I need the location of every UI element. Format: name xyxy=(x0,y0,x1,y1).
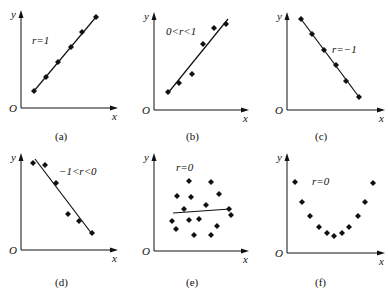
origin-label: O xyxy=(9,102,17,114)
scatter-panels: yxOr=1(a)yxO0<r<1(b)yxOr=−1(c)yxO−1<r<0(… xyxy=(0,0,388,297)
x-axis-label: x xyxy=(378,112,384,124)
data-point xyxy=(346,224,352,230)
data-point xyxy=(169,218,175,224)
data-point xyxy=(79,29,85,35)
x-axis-label: x xyxy=(378,255,384,267)
data-point xyxy=(186,178,192,184)
panel-e: yxOr=0(e) xyxy=(142,151,249,289)
y-axis-arrow-icon xyxy=(19,153,24,161)
y-axis-arrow-icon xyxy=(152,153,157,161)
data-point xyxy=(362,199,368,205)
data-point xyxy=(324,230,330,236)
data-point xyxy=(200,41,206,47)
data-point xyxy=(174,193,180,199)
panel-a: yxOr=1(a) xyxy=(9,8,118,143)
data-point xyxy=(214,223,220,229)
data-point xyxy=(292,179,298,185)
origin-label: O xyxy=(142,104,150,116)
data-point xyxy=(191,232,197,238)
correlation-annotation: −1<r<0 xyxy=(59,165,97,177)
x-axis-label: x xyxy=(111,110,117,122)
panel-f: yxOr=0(f) xyxy=(275,151,385,289)
x-axis-label: x xyxy=(111,252,117,264)
correlation-annotation: r=0 xyxy=(312,175,330,187)
data-point xyxy=(196,216,202,222)
panel-caption: (c) xyxy=(315,130,328,143)
data-point xyxy=(203,202,209,208)
data-point xyxy=(331,233,337,239)
correlation-annotation: r=0 xyxy=(176,161,194,173)
data-point xyxy=(173,226,179,232)
data-point xyxy=(30,160,36,166)
data-point xyxy=(186,217,192,223)
x-axis-label: x xyxy=(242,112,248,124)
y-axis-label: y xyxy=(143,151,149,163)
correlation-annotation: 0<r<1 xyxy=(166,25,196,37)
data-point xyxy=(65,211,71,217)
correlation-figure: yxOr=1(a)yxO0<r<1(b)yxOr=−1(c)yxO−1<r<0(… xyxy=(0,0,388,297)
panel-caption: (b) xyxy=(186,130,199,143)
data-point xyxy=(42,162,48,168)
panel-b: yxO0<r<1(b) xyxy=(142,10,249,143)
data-point xyxy=(226,206,232,212)
panel-caption: (f) xyxy=(315,276,326,289)
panel-c: yxOr=−1(c) xyxy=(275,10,385,143)
data-point xyxy=(307,213,313,219)
y-axis-label: y xyxy=(143,10,149,22)
y-axis-label: y xyxy=(276,151,282,163)
y-axis-arrow-icon xyxy=(152,12,157,20)
data-point xyxy=(189,71,195,77)
data-point xyxy=(208,179,214,185)
data-point xyxy=(208,232,214,238)
data-point xyxy=(176,80,182,86)
origin-label: O xyxy=(275,104,283,116)
data-point xyxy=(216,191,222,197)
data-point xyxy=(181,206,187,212)
y-axis-arrow-icon xyxy=(285,12,290,20)
regression-line xyxy=(301,19,359,97)
data-point xyxy=(316,224,322,230)
regression-line xyxy=(34,17,96,91)
y-axis-label: y xyxy=(276,10,282,22)
origin-label: O xyxy=(275,247,283,259)
data-point xyxy=(211,25,217,31)
data-point xyxy=(299,199,305,205)
y-axis-arrow-icon xyxy=(19,10,24,18)
x-axis-label: x xyxy=(242,253,248,265)
y-axis-arrow-icon xyxy=(285,153,290,161)
data-point xyxy=(53,180,59,186)
correlation-annotation: r=1 xyxy=(32,34,49,46)
panel-caption: (e) xyxy=(186,276,199,289)
panel-caption: (d) xyxy=(55,276,68,289)
data-point xyxy=(339,230,345,236)
origin-label: O xyxy=(9,244,17,256)
data-point xyxy=(223,21,229,27)
data-point xyxy=(228,212,234,218)
y-axis-label: y xyxy=(10,8,16,20)
panel-d: yxO−1<r<0(d) xyxy=(9,151,118,289)
panel-caption: (a) xyxy=(55,130,68,143)
regression-line xyxy=(173,209,230,213)
y-axis-label: y xyxy=(10,151,16,163)
data-point xyxy=(370,180,376,186)
origin-label: O xyxy=(142,245,150,257)
correlation-annotation: r=−1 xyxy=(332,43,357,55)
data-point xyxy=(188,194,194,200)
data-point xyxy=(355,213,361,219)
